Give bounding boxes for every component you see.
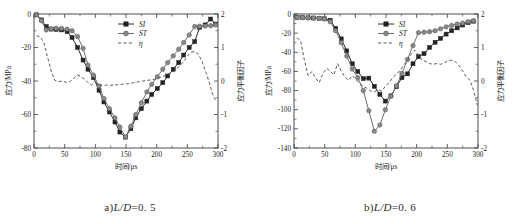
x-tick-label: 50 (61, 151, 69, 159)
caption-b-value: =0. 6 (392, 201, 416, 213)
y-tick-label: -140 (278, 145, 292, 153)
legend-marker-st (124, 31, 129, 36)
marker-st (197, 24, 201, 28)
marker-si (187, 46, 191, 50)
marker-si (166, 74, 170, 78)
y-tick-label: -100 (278, 106, 292, 114)
y2-tick-label: 0 (481, 78, 485, 86)
x-axis-title: 时间/μs (115, 162, 138, 171)
marker-st (34, 13, 38, 17)
x-tick-label: 50 (321, 151, 329, 159)
y2-tick-label: 0 (221, 78, 225, 86)
x-tick-label: 200 (411, 151, 422, 159)
marker-si (422, 52, 426, 56)
marker-si (118, 130, 122, 134)
marker-st (39, 19, 43, 23)
marker-st (203, 24, 207, 28)
x-tick-label: 150 (121, 151, 132, 159)
y-tick-label: -40 (281, 49, 291, 57)
y-tick-label: 0 (287, 11, 291, 19)
legend-label-ST: ST (139, 29, 148, 38)
caption-b: b)L/D=0. 6 (260, 201, 520, 213)
marker-st (145, 90, 149, 94)
marker-si (161, 81, 165, 85)
marker-si (433, 40, 437, 44)
caption-b-expr: L/D (374, 201, 392, 213)
marker-st (177, 47, 181, 51)
marker-st (372, 129, 376, 133)
y-tick-label: -60 (281, 68, 291, 76)
marker-si (439, 36, 443, 40)
marker-st (466, 19, 470, 23)
marker-st (328, 19, 332, 23)
marker-st (44, 28, 48, 32)
y2-tick-label: 2 (481, 11, 485, 19)
marker-si (81, 58, 85, 62)
marker-si (372, 84, 376, 88)
x-axis-title: 时间/μs (375, 162, 398, 171)
caption-a: a)L/D=0. 5 (0, 201, 260, 213)
marker-st (187, 33, 191, 37)
marker-st (449, 23, 453, 27)
x-tick-label: 100 (90, 151, 101, 159)
x-tick-label: 0 (292, 151, 296, 159)
marker-st (107, 106, 111, 110)
marker-st (300, 15, 304, 19)
marker-st (427, 30, 431, 34)
x-tick-label: 200 (151, 151, 162, 159)
marker-si (367, 76, 371, 80)
marker-si (193, 40, 197, 44)
marker-st (70, 29, 74, 33)
marker-st (389, 94, 393, 98)
legend-label-η: η (139, 39, 143, 48)
legend-marker-si (384, 22, 388, 26)
marker-si (177, 61, 181, 65)
y2-tick-label: 1 (221, 44, 225, 52)
y2-axis-title: 应力平衡因子 (236, 59, 245, 102)
marker-st (400, 71, 404, 75)
marker-si (70, 35, 74, 39)
panel-a: 0501001502002503000-20-40-60-80210-1-2时间… (0, 0, 260, 217)
marker-st (181, 40, 185, 44)
marker-si (378, 92, 382, 96)
marker-st (460, 21, 464, 25)
marker-st (86, 63, 90, 67)
marker-si (444, 32, 448, 36)
y-tick-label: -80 (281, 87, 291, 95)
series-line-η (297, 37, 477, 105)
marker-st (444, 25, 448, 29)
marker-st (75, 34, 79, 38)
marker-st (433, 29, 437, 33)
marker-st (361, 88, 365, 92)
marker-si (405, 72, 409, 76)
marker-st (383, 108, 387, 112)
marker-si (356, 69, 360, 73)
marker-st (416, 30, 420, 34)
marker-si (76, 46, 80, 50)
marker-st (422, 30, 426, 34)
marker-st (356, 75, 360, 79)
figure-stress-equilibrium: 0501001502002503000-20-40-60-80210-1-2时间… (0, 0, 520, 217)
panel-b: 0501001502002503000-20-40-60-80-100-120-… (260, 0, 520, 217)
x-tick-label: 250 (182, 151, 193, 159)
y-axis-title: 应力/MPa (264, 65, 273, 96)
marker-st (438, 27, 442, 31)
marker-st (311, 16, 315, 20)
y2-tick-label: 1 (481, 44, 485, 52)
marker-st (455, 22, 459, 26)
marker-st (134, 112, 138, 116)
marker-st (54, 26, 58, 30)
marker-st (65, 27, 69, 31)
marker-st (59, 26, 63, 30)
caption-b-prefix: b) (364, 201, 374, 213)
y2-tick-label: 2 (221, 11, 225, 19)
marker-si (145, 99, 149, 103)
marker-st (345, 54, 349, 58)
chart-a: 0501001502002503000-20-40-60-80210-1-2时间… (0, 0, 260, 185)
x-tick-label: 100 (350, 151, 361, 159)
marker-si (428, 46, 432, 50)
marker-st (129, 124, 133, 128)
legend-marker-st (384, 31, 389, 36)
marker-st (411, 43, 415, 47)
marker-si (361, 77, 365, 81)
